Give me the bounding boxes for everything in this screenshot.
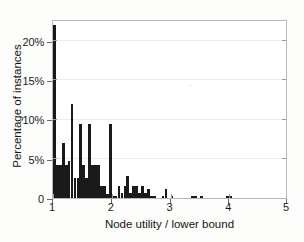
y-tick-inner	[53, 40, 57, 41]
x-axis-tick-label: 5	[276, 202, 296, 213]
histogram-bar	[200, 196, 203, 198]
y-axis-tick-label: 0	[0, 194, 44, 205]
y-tick-inner	[53, 119, 57, 120]
x-tick-inner	[53, 194, 54, 198]
x-axis-tick-label: 3	[160, 202, 180, 213]
histogram-bar	[109, 124, 112, 198]
y-tick-inner-right	[282, 119, 286, 120]
y-axis-tick	[47, 42, 52, 43]
histogram-figure: 05%10%15%20% 12345 Node utility / lower …	[0, 0, 304, 242]
y-axis-title: Percentage of instances	[11, 26, 23, 186]
x-tick-inner	[171, 194, 172, 198]
y-tick-inner-right	[282, 158, 286, 159]
x-axis-tick-label: 4	[218, 202, 238, 213]
x-axis-title: Node utility / lower bound	[52, 218, 287, 230]
page-background: 05%10%15%20% 12345 Node utility / lower …	[0, 0, 304, 242]
histogram-bars	[53, 21, 286, 198]
y-axis-tick	[47, 81, 52, 82]
y-tick-inner	[53, 79, 57, 80]
histogram-bar	[194, 196, 197, 198]
scan-speck	[190, 85, 191, 86]
y-axis-tick	[47, 160, 52, 161]
histogram-bar	[153, 196, 156, 198]
x-axis-tick-label: 2	[101, 202, 121, 213]
histogram-bar	[165, 189, 168, 198]
y-tick-inner-right	[282, 79, 286, 80]
y-tick-inner-right	[282, 40, 286, 41]
y-axis-tick	[47, 120, 52, 121]
y-tick-inner	[53, 158, 57, 159]
x-axis-tick-label: 1	[42, 202, 62, 213]
x-tick-inner	[112, 194, 113, 198]
plot-area	[52, 20, 287, 199]
x-tick-inner	[229, 194, 230, 198]
